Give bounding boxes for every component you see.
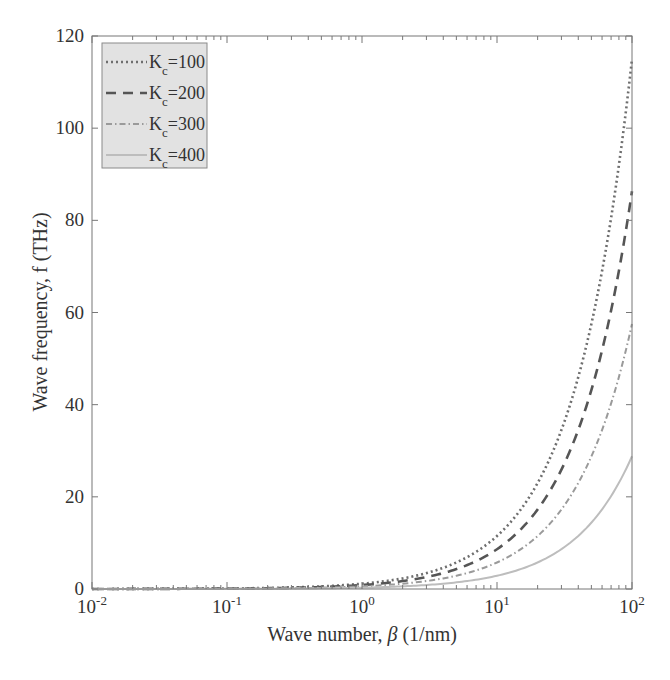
x-axis-tick-labels: 10-210-1100101102	[77, 593, 645, 617]
y-axis-tick-labels: 020406080100120	[56, 25, 85, 599]
series-line-2	[92, 191, 632, 589]
y-axis-title: Wave frequency, f (THz)	[29, 212, 52, 411]
y-tick-label: 40	[65, 394, 84, 415]
x-tick-label: 10-1	[212, 593, 242, 617]
x-tick-label: 102	[619, 593, 645, 617]
x-tick-label: 10-2	[77, 593, 107, 617]
y-tick-label: 80	[65, 209, 84, 230]
y-tick-label: 120	[56, 25, 85, 46]
y-tick-label: 60	[65, 302, 84, 323]
series-line-3	[92, 324, 632, 589]
legend: Kc=100Kc=200Kc=300Kc=400	[102, 43, 207, 171]
x-tick-label: 100	[349, 593, 375, 617]
y-tick-label: 100	[56, 117, 85, 138]
x-tick-label: 101	[484, 593, 510, 617]
line-chart: 020406080100120 10-210-1100101102 Wave n…	[0, 0, 670, 680]
x-axis-title: Wave number, β (1/nm)	[267, 623, 457, 646]
y-tick-label: 20	[65, 486, 84, 507]
